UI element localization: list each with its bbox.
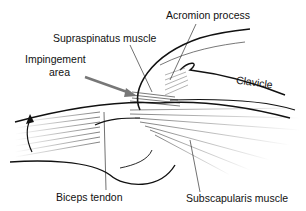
- label-supraspinatus-muscle: Supraspinatus muscle: [53, 33, 156, 44]
- label-acromion-process: Acromion process: [166, 10, 250, 21]
- label-impingement-area: area: [49, 67, 70, 78]
- label-biceps-tendon: Biceps tendon: [56, 192, 123, 203]
- label-impingement: Impingement: [25, 54, 86, 65]
- label-subscapularis-muscle: Subscapularis muscle: [186, 193, 288, 204]
- shoulder-diagram: Acromion process Supraspinatus muscle Im…: [0, 0, 306, 211]
